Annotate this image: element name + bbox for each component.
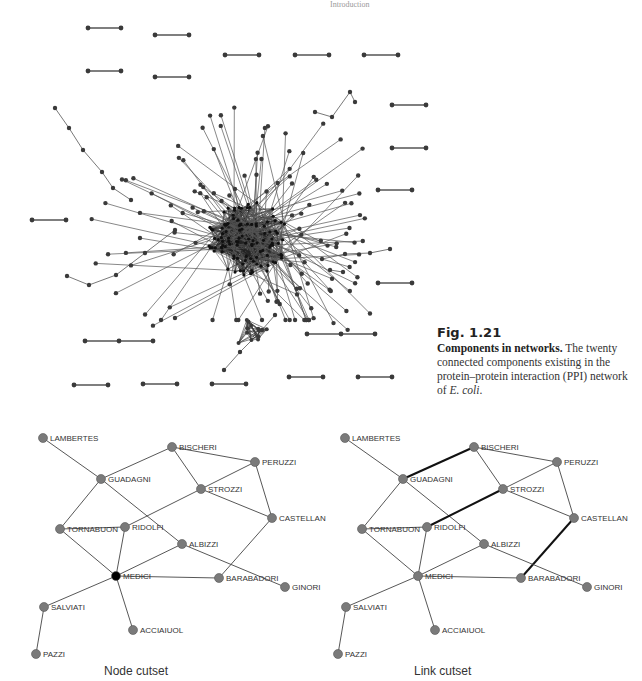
node-label: BISCHERI <box>179 443 217 452</box>
node-tornabuon <box>358 525 367 534</box>
caption-species: E. coli <box>449 384 479 396</box>
node-lambertes <box>341 434 350 443</box>
node-label: LAMBERTES <box>352 434 400 443</box>
link <box>116 576 133 630</box>
node-castellan <box>570 514 579 523</box>
node-label: TORNABUON <box>369 525 420 534</box>
node-medici <box>414 572 423 581</box>
node-label: GUADAGNI <box>410 475 453 484</box>
node-label: GINORI <box>594 583 622 592</box>
node-label: TORNABUON <box>67 525 118 534</box>
node-label: PAZZI <box>43 650 65 659</box>
link-cutset-label: Link cutset <box>414 664 471 678</box>
link <box>362 529 418 576</box>
node-ridolfi <box>121 523 130 532</box>
node-label: ALBIZZI <box>189 540 218 549</box>
node-label: BARABADORI <box>528 574 580 583</box>
link <box>338 607 346 654</box>
cut-node-medici <box>112 572 121 581</box>
node-bischeri <box>470 443 479 452</box>
node-label: PAZZI <box>345 650 367 659</box>
node-salviati <box>40 603 49 612</box>
node-label: PERUZZI <box>262 458 296 467</box>
node-bischeri <box>168 443 177 452</box>
node-peruzzi <box>251 458 260 467</box>
link <box>101 479 182 544</box>
node-label: CASTELLAN <box>279 514 326 523</box>
node-guadagni <box>399 475 408 484</box>
node-label: RIDOLFI <box>132 523 164 532</box>
link <box>362 479 403 529</box>
node-label: SALVIATI <box>51 603 85 612</box>
node-barabadori <box>517 574 526 583</box>
node-label: PERUZZI <box>564 458 598 467</box>
node-lambertes <box>39 434 48 443</box>
figure-caption: Fig. 1.21 Components in networks. The tw… <box>437 326 637 397</box>
link <box>255 462 272 518</box>
node-albizzi <box>480 540 489 549</box>
node-acciaiuol <box>431 626 440 635</box>
link <box>557 462 574 518</box>
node-label: GUADAGNI <box>108 475 151 484</box>
link <box>345 438 403 479</box>
link <box>172 447 201 489</box>
node-label: ALBIZZI <box>491 540 520 549</box>
node-castellan <box>268 514 277 523</box>
link <box>418 576 435 630</box>
node-peruzzi <box>553 458 562 467</box>
node-label: STROZZI <box>208 485 242 494</box>
node-label: BISCHERI <box>481 443 519 452</box>
node-label: RIDOLFI <box>434 523 466 532</box>
node-label: STROZZI <box>510 485 544 494</box>
link <box>43 438 101 479</box>
node-label: ACCIAIUOL <box>442 626 486 635</box>
node-barabadori <box>215 574 224 583</box>
link <box>403 479 484 544</box>
node-cutset-graph: LAMBERTESBISCHERIPERUZZIGUADAGNISTROZZIC… <box>32 434 326 660</box>
node-ridolfi <box>423 523 432 532</box>
node-label: GINORI <box>292 583 320 592</box>
link-cutset-graph: LAMBERTESBISCHERIPERUZZIGUADAGNISTROZZIC… <box>334 434 628 660</box>
cut-link <box>427 489 503 527</box>
figure-number: Fig. 1.21 <box>437 326 637 340</box>
node-pazzi <box>32 650 41 659</box>
link <box>418 527 427 576</box>
link <box>60 529 116 576</box>
node-guadagni <box>97 475 106 484</box>
link <box>116 527 125 576</box>
node-label: ACCIAIUOL <box>140 626 184 635</box>
node-ginori <box>583 583 592 592</box>
node-salviati <box>342 603 351 612</box>
node-label: MEDICI <box>123 572 151 581</box>
node-strozzi <box>197 485 206 494</box>
caption-title: Components in networks. <box>437 342 563 354</box>
node-label: MEDICI <box>425 572 453 581</box>
node-cutset-label: Node cutset <box>104 664 168 678</box>
node-strozzi <box>499 485 508 494</box>
link <box>36 607 44 654</box>
node-pazzi <box>334 650 343 659</box>
link <box>474 447 503 489</box>
link <box>219 518 272 578</box>
node-ginori <box>281 583 290 592</box>
node-label: SALVIATI <box>353 603 387 612</box>
link <box>125 489 201 527</box>
node-label: CASTELLAN <box>581 514 628 523</box>
node-acciaiuol <box>129 626 138 635</box>
cut-link <box>521 518 574 578</box>
node-tornabuon <box>56 525 65 534</box>
node-label: BARABADORI <box>226 574 278 583</box>
node-albizzi <box>178 540 187 549</box>
link <box>60 479 101 529</box>
node-label: LAMBERTES <box>50 434 98 443</box>
